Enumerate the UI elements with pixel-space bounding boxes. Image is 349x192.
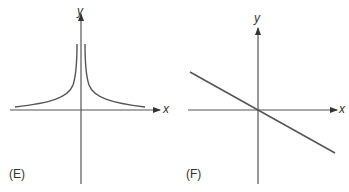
graphs-figure: [0, 0, 349, 192]
panel-e-y-label: y: [77, 4, 83, 18]
panel-f: [188, 28, 337, 184]
panel-e-right-branch: [85, 44, 145, 107]
panel-f-x-label: x: [339, 102, 345, 116]
panel-f-y-label: y: [254, 11, 260, 25]
panel-e-left-branch: [15, 44, 77, 107]
panel-e-x-label: x: [163, 102, 169, 116]
panel-f-line: [190, 72, 335, 153]
panel-e-label: (E): [9, 167, 25, 181]
panel-e: [10, 14, 160, 184]
panel-f-label: (F): [186, 167, 201, 181]
